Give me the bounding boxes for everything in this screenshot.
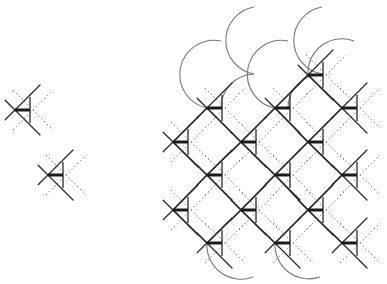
lattice-node <box>265 218 313 268</box>
solid-line <box>265 233 300 268</box>
solid-line <box>298 50 333 85</box>
solid-line <box>197 218 232 253</box>
solid-line <box>231 185 266 220</box>
lattice-node <box>298 117 346 167</box>
solid-line <box>163 200 198 235</box>
isolated-motifs-group <box>5 85 86 200</box>
solid-line <box>197 233 232 268</box>
lattice-node <box>163 117 211 167</box>
solid-line <box>5 100 40 135</box>
solid-line <box>298 65 333 100</box>
arc-layer <box>180 7 354 279</box>
arc <box>180 40 221 108</box>
solid-line <box>265 83 300 118</box>
solid-line <box>231 200 266 235</box>
solid-line <box>231 117 266 152</box>
lattice-node <box>197 83 245 133</box>
solid-line <box>231 132 266 167</box>
arc <box>275 243 320 279</box>
solid-line <box>265 150 300 185</box>
arc <box>226 7 254 74</box>
solid-line <box>197 165 232 200</box>
solid-line <box>332 98 367 133</box>
solid-line <box>38 165 73 200</box>
lattice-group <box>163 50 380 268</box>
solid-line <box>163 132 198 167</box>
lattice-node <box>231 117 279 167</box>
solid-line <box>332 218 367 253</box>
solid-line <box>197 150 232 185</box>
solid-line <box>332 150 367 185</box>
lattice-node <box>332 218 380 268</box>
lattice-node <box>298 185 346 235</box>
arc <box>207 243 253 279</box>
solid-line <box>163 117 198 152</box>
arc <box>308 39 354 75</box>
lattice-diagram <box>0 0 387 284</box>
solid-line <box>265 98 300 133</box>
arc <box>288 74 322 108</box>
lattice-node <box>332 150 380 200</box>
isolated-motif <box>38 150 86 200</box>
isolated-motif <box>5 85 53 135</box>
solid-line <box>298 132 333 167</box>
solid-line <box>298 200 333 235</box>
solid-line <box>5 85 40 120</box>
lattice-node <box>265 83 313 133</box>
lattice-node <box>265 150 313 200</box>
solid-line <box>298 185 333 220</box>
solid-line <box>163 185 198 220</box>
lattice-node <box>163 185 211 235</box>
lattice-node <box>231 185 279 235</box>
arc <box>294 7 322 74</box>
lattice-node <box>197 218 245 268</box>
solid-line <box>332 165 367 200</box>
lattice-node <box>332 83 380 133</box>
lattice-node <box>197 150 245 200</box>
solid-line <box>265 165 300 200</box>
solid-line <box>265 218 300 253</box>
solid-line <box>197 98 232 133</box>
solid-line <box>38 150 73 185</box>
solid-line <box>332 233 367 268</box>
lattice-node <box>298 50 346 100</box>
solid-line <box>332 83 367 118</box>
arc <box>221 74 254 108</box>
solid-line <box>298 117 333 152</box>
solid-line <box>197 83 232 118</box>
